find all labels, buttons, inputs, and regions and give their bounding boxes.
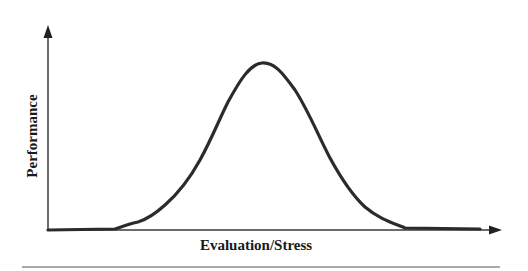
figure: Evaluation/Stress Performance xyxy=(0,0,528,271)
y-axis-label: Performance xyxy=(24,94,40,178)
y-axis-arrowhead-icon xyxy=(44,25,53,38)
x-axis-arrowhead-icon xyxy=(489,226,502,235)
performance-curve xyxy=(48,63,480,230)
chart-svg: Evaluation/Stress Performance xyxy=(0,0,528,271)
x-axis-label: Evaluation/Stress xyxy=(200,237,312,253)
